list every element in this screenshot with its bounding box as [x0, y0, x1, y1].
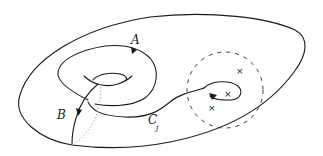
diagram-canvas: × × × A B C j	[0, 0, 323, 156]
puncture-loop	[204, 82, 241, 100]
marked-point: ×	[236, 66, 244, 76]
handle-inner-upper	[93, 73, 127, 80]
marked-point: ×	[208, 103, 216, 113]
curve-cj	[88, 88, 204, 117]
surface-diagram: × × × A B C j	[0, 0, 323, 156]
marked-point: ×	[224, 89, 232, 99]
label-a: A	[130, 33, 140, 47]
handle-outer-loop	[58, 46, 156, 106]
handle-inner-lip	[84, 76, 132, 86]
label-b: B	[56, 108, 66, 122]
